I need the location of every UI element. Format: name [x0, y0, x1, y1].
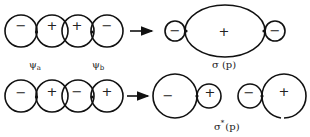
sign-label: − — [72, 84, 83, 99]
sign-label: + — [279, 84, 290, 99]
sigma-bond-diagram: − + + − ψa ψb − + − σ (p) − + − + − — [0, 0, 310, 137]
top-row-orbitals: − + + − — [5, 15, 123, 47]
nucleus-dot — [195, 94, 198, 97]
sign-label: − — [16, 85, 27, 100]
sign-label: + — [102, 84, 113, 99]
sign-label: + — [47, 18, 58, 33]
sign-label: − — [102, 18, 113, 33]
sign-label: + — [72, 18, 83, 33]
nucleus-dot — [35, 30, 38, 33]
sigma-antibonding-orbital: − + − + σ*(p) — [153, 74, 306, 132]
bottom-row-orbitals: − + − + — [5, 80, 123, 112]
sign-label: + — [47, 84, 58, 99]
sign-label: − — [16, 18, 27, 33]
orbital-lobe — [153, 74, 197, 118]
sign-label: + — [219, 24, 230, 39]
sign-label: − — [244, 85, 255, 100]
sigma-star-p-label: σ*(p) — [214, 119, 240, 132]
nucleus-dot — [262, 29, 265, 32]
nucleus-dot — [90, 95, 93, 98]
sign-label: − — [170, 23, 181, 38]
sigma-bonding-orbital: − + − σ (p) — [165, 5, 285, 70]
nucleus-dot — [35, 95, 38, 98]
psi-b-label: ψb — [92, 59, 105, 72]
sign-label: + — [205, 85, 216, 100]
sign-label: − — [270, 23, 281, 38]
sign-label: − — [163, 88, 174, 103]
sigma-p-label: σ (p) — [212, 59, 236, 70]
psi-a-label: ψa — [29, 59, 41, 72]
nucleus-dot — [90, 30, 93, 33]
nucleus-dot — [260, 94, 263, 97]
psi-labels: ψa ψb — [29, 59, 105, 72]
nucleus-dot — [184, 29, 187, 32]
